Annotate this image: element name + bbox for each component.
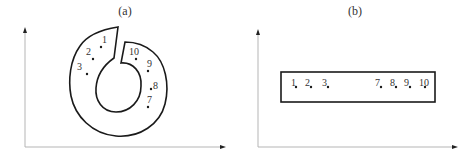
- point-8-label: 8: [390, 77, 395, 88]
- point-7-label: 7: [375, 77, 380, 88]
- y-axis-arrow-icon: [256, 29, 260, 35]
- point-3-dot: [327, 86, 329, 88]
- x-axis-arrow-icon: [220, 145, 226, 149]
- point-2-dot: [92, 58, 94, 60]
- point-2-dot: [310, 86, 312, 88]
- point-1-dot: [100, 46, 102, 48]
- diagram-figure: (a) 1 2 3 10 9 8 7: [0, 0, 474, 154]
- point-8-dot: [395, 86, 397, 88]
- point-9-label: 9: [147, 58, 152, 69]
- panel-b: (b) 1 2 3 7 8 9 10: [256, 4, 458, 149]
- point-9-dot: [147, 70, 149, 72]
- point-3-label: 3: [77, 61, 82, 72]
- point-7-dot: [147, 106, 149, 108]
- point-2-label: 2: [305, 77, 310, 88]
- x-axis-arrow-icon: [452, 145, 458, 149]
- y-axis-arrow-icon: [23, 27, 27, 33]
- point-7-label: 7: [147, 94, 152, 105]
- panel-a: (a) 1 2 3 10 9 8 7: [23, 4, 226, 149]
- point-10-dot: [135, 58, 137, 60]
- point-3-label: 3: [322, 77, 327, 88]
- point-8-dot: [150, 88, 152, 90]
- point-10-label: 10: [129, 46, 139, 57]
- point-9-label: 9: [404, 77, 409, 88]
- panel-a-label: (a): [118, 4, 131, 18]
- panel-a-points: 1 2 3 10 9 8 7: [77, 34, 158, 108]
- panel-b-axes: [256, 29, 458, 149]
- point-2-label: 2: [86, 46, 91, 57]
- panel-b-label: (b): [348, 4, 362, 18]
- point-9-dot: [409, 86, 411, 88]
- point-1-label: 1: [102, 34, 107, 45]
- point-8-label: 8: [153, 80, 158, 91]
- panel-b-points: 1 2 3 7 8 9 10: [291, 77, 429, 88]
- point-10-label: 10: [419, 77, 429, 88]
- point-3-dot: [86, 73, 88, 75]
- point-7-dot: [380, 86, 382, 88]
- point-1-label: 1: [291, 77, 296, 88]
